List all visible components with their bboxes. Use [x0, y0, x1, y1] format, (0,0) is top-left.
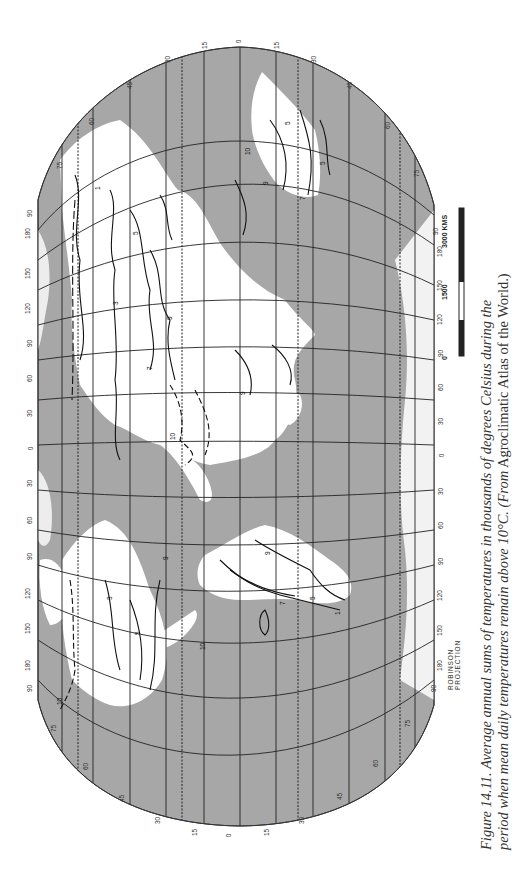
lon-label: 180 [24, 228, 31, 239]
lon-label: 120 [436, 590, 443, 601]
lon-label: 60 [437, 522, 444, 529]
scale-bar: 0 1500 3000 KMS [437, 200, 477, 360]
lat-label: 15 [201, 42, 208, 49]
lat-label: 60 [384, 122, 391, 129]
lon-label: 0 [27, 447, 34, 451]
svg-text:9: 9 [262, 181, 269, 185]
svg-text:5: 5 [134, 631, 141, 635]
lon-label: 60 [26, 375, 33, 382]
lat-label: 45 [346, 82, 353, 89]
lon-label: 30 [26, 410, 33, 417]
svg-text:9: 9 [264, 551, 271, 555]
lat-label: 0 [225, 834, 232, 838]
svg-text:10: 10 [56, 697, 63, 705]
scale-label-0: 0 [441, 356, 448, 360]
lon-label: 30 [26, 480, 33, 487]
svg-text:7: 7 [279, 601, 286, 605]
scale-label-1500: 1500 [441, 284, 448, 300]
svg-text:9: 9 [166, 316, 173, 320]
projection-label: ROBINSON PROJECTION [447, 615, 461, 690]
lon-label: 30 [437, 488, 444, 495]
caption-line-1: Average annual sums of temperatures in t… [478, 300, 494, 769]
svg-text:10: 10 [244, 147, 251, 155]
lon-label: 90 [437, 558, 444, 565]
svg-text:3: 3 [106, 596, 113, 600]
lat-label: 0 [235, 40, 242, 44]
pole-label: 90 [26, 210, 33, 217]
lat-label: 15 [263, 829, 270, 836]
lon-label: 150 [436, 625, 443, 636]
lat-label: 45 [336, 793, 343, 800]
lon-label: 180 [436, 660, 443, 671]
lon-label: 60 [437, 384, 444, 391]
svg-text:1: 1 [334, 611, 341, 615]
lon-label: 30 [437, 418, 444, 425]
svg-text:9: 9 [162, 556, 169, 560]
lat-label: 75 [413, 170, 420, 177]
lat-label: 30 [298, 817, 305, 824]
lon-label: 120 [24, 588, 31, 599]
lat-label: 75 [56, 162, 63, 169]
lat-label: 60 [372, 760, 379, 767]
lon-label: 0 [438, 454, 445, 458]
lon-label: 60 [26, 517, 33, 524]
figure-number: Figure 14.11. [478, 772, 494, 850]
caption-line-2: period when mean daily temperatures rema… [495, 471, 511, 850]
svg-text:3: 3 [112, 301, 119, 305]
lat-label: 45 [126, 82, 133, 89]
svg-text:5: 5 [132, 231, 139, 235]
lon-label: 150 [24, 623, 31, 634]
pole-label: 90 [430, 685, 437, 692]
lat-label: 75 [404, 720, 411, 727]
lat-label: 30 [310, 56, 317, 63]
lat-label: 15 [273, 42, 280, 49]
lat-label: 60 [82, 763, 89, 770]
lon-label: 120 [24, 303, 31, 314]
svg-text:7: 7 [299, 196, 306, 200]
svg-text:10: 10 [199, 642, 206, 650]
lat-label: 30 [154, 817, 161, 824]
lon-label: 180 [24, 660, 31, 671]
svg-text:5: 5 [284, 121, 291, 125]
pole-label: 90 [26, 685, 33, 692]
world-map: 1 3 5 7 9 10 9 9 10 5 5 7 3 5 9 10 7 5 1… [0, 0, 522, 870]
lon-label: 90 [26, 553, 33, 560]
figure-caption: Figure 14.11. Average annual sums of tem… [478, 170, 512, 850]
lat-label: 60 [88, 118, 95, 125]
svg-text:5: 5 [309, 596, 316, 600]
caption-source: Agroclimatic Atlas of the World.) [495, 273, 511, 468]
lat-label: 15 [191, 829, 198, 836]
lon-label: 150 [24, 268, 31, 279]
svg-text:9: 9 [239, 391, 246, 395]
scale-label-3000: 3000 KMS [441, 215, 448, 248]
lat-label: 45 [118, 795, 125, 802]
lon-label: 90 [26, 340, 33, 347]
svg-text:5: 5 [319, 161, 326, 165]
svg-text:7: 7 [146, 366, 153, 370]
svg-text:10: 10 [169, 432, 176, 440]
lat-label: 30 [164, 56, 171, 63]
lat-label: 75 [50, 725, 57, 732]
svg-text:1: 1 [94, 186, 101, 190]
